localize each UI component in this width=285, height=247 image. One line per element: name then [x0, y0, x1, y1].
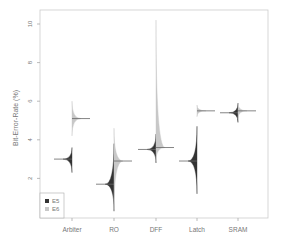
legend-swatch: [45, 199, 49, 203]
legend-label: E5: [52, 198, 60, 204]
y-axis-label: Bit-Error-Rate (%): [12, 90, 20, 146]
violin-e5: [105, 144, 114, 212]
violin-chart: 246810 ArbiterRODFFLatchSRAM Bit-Error-R…: [0, 0, 285, 247]
violin-e5: [147, 134, 156, 163]
y-tick-label: 4: [27, 137, 33, 141]
x-tick-label: RO: [109, 226, 119, 233]
x-tick-label: DFF: [150, 226, 163, 233]
x-tick-label: Arbiter: [62, 226, 82, 233]
legend-label: E6: [52, 206, 60, 212]
violin-e6: [156, 20, 165, 161]
legend: E5E6: [40, 193, 64, 218]
y-tick-label: 2: [27, 176, 33, 180]
plot-area: [40, 10, 268, 218]
violin-e6: [114, 128, 123, 209]
legend-swatch: [45, 207, 49, 211]
x-tick-label: Latch: [189, 226, 205, 233]
violin-e5: [63, 148, 72, 173]
x-axis: ArbiterRODFFLatchSRAM: [62, 218, 247, 233]
y-tick-label: 10: [27, 20, 33, 27]
y-tick-label: 8: [27, 60, 33, 64]
x-tick-label: SRAM: [229, 226, 248, 233]
violin-e5: [188, 126, 197, 194]
y-tick-label: 6: [27, 99, 33, 103]
y-axis: 246810: [27, 20, 40, 180]
